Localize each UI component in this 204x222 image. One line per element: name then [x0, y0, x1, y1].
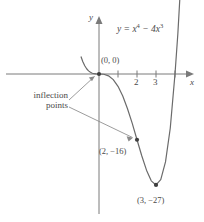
graph-figure: y x y = x4 − 4x3 (0, 0) 2 3 inflection p…: [0, 0, 204, 222]
equation-lhs: y = x: [117, 24, 137, 34]
inflection-points-note: inflection points: [2, 90, 68, 111]
x-axis-label: x: [190, 77, 194, 87]
origin-point-label: (0, 0): [101, 55, 119, 65]
inflection-note-line-1: inflection: [2, 90, 68, 100]
arrow-to-origin: [69, 77, 95, 101]
equation-exponent-2: 3: [160, 22, 163, 29]
inflection-note-line-2: points: [2, 100, 68, 110]
graph-canvas: [0, 0, 204, 222]
inflection-point-2-label: (2, −16): [99, 146, 126, 156]
marker-minimum: [154, 183, 158, 187]
y-axis-label: y: [89, 12, 93, 22]
equation-mid: − 4x: [140, 24, 160, 34]
callout-arrows: [69, 76, 133, 141]
arrow-to-inflection-2: [69, 107, 133, 138]
x-tick-label-2: 2: [134, 77, 139, 87]
minimum-point-label: (3, −27): [137, 195, 164, 205]
x-tick-label-3: 3: [153, 77, 158, 87]
equation-label: y = x4 − 4x3: [117, 22, 163, 34]
marker-origin: [97, 72, 101, 76]
marker-inflection-2: [135, 138, 139, 142]
y-axis: [96, 16, 103, 214]
point-markers: [97, 72, 158, 187]
